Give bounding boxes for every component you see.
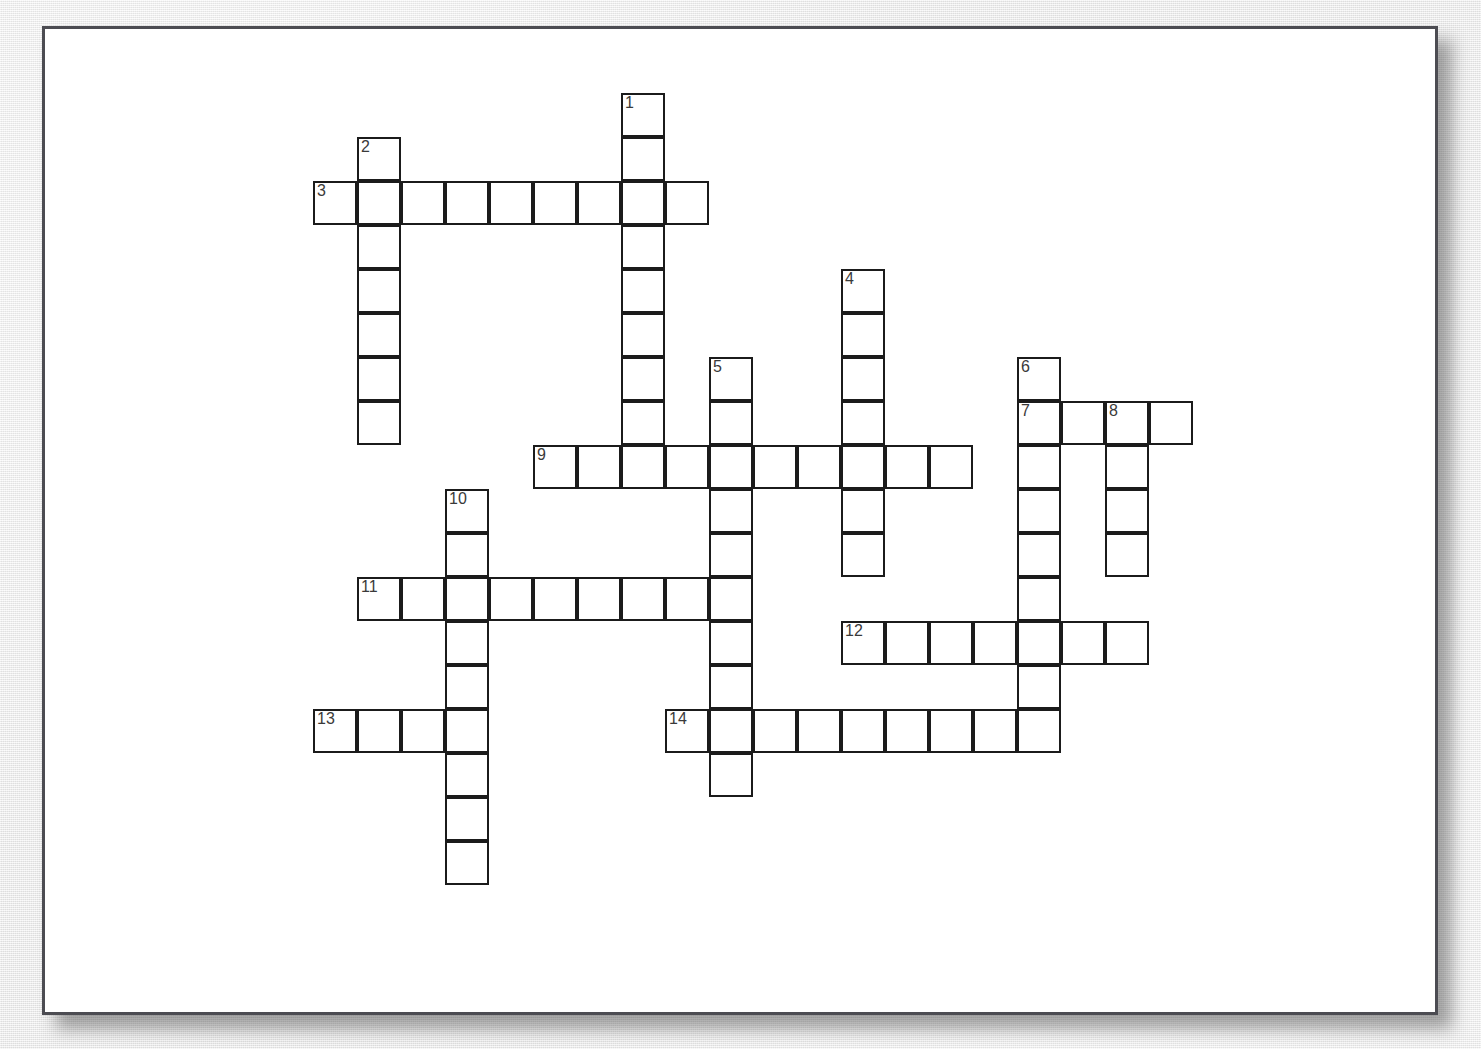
crossword-cell[interactable] [489, 181, 533, 225]
crossword-cell[interactable]: 11 [357, 577, 401, 621]
crossword-cell[interactable] [621, 445, 665, 489]
crossword-cell[interactable] [445, 753, 489, 797]
crossword-cell[interactable]: 8 [1105, 401, 1149, 445]
crossword-cell[interactable]: 9 [533, 445, 577, 489]
cell-number-3: 3 [317, 182, 326, 199]
crossword-cell[interactable] [621, 269, 665, 313]
crossword-cell[interactable] [797, 445, 841, 489]
crossword-cell[interactable] [885, 621, 929, 665]
crossword-cell[interactable] [577, 445, 621, 489]
crossword-cell[interactable] [533, 181, 577, 225]
crossword-cell[interactable] [445, 621, 489, 665]
crossword-cell[interactable]: 2 [357, 137, 401, 181]
crossword-cell[interactable] [709, 577, 753, 621]
crossword-cell[interactable] [621, 577, 665, 621]
crossword-cell[interactable] [445, 665, 489, 709]
crossword-cell[interactable] [1017, 445, 1061, 489]
crossword-cell[interactable]: 1 [621, 93, 665, 137]
crossword-cell[interactable] [357, 401, 401, 445]
crossword-cell[interactable] [621, 357, 665, 401]
crossword-cell[interactable] [929, 621, 973, 665]
crossword-cell[interactable] [621, 225, 665, 269]
crossword-cell[interactable] [709, 401, 753, 445]
crossword-cell[interactable] [841, 533, 885, 577]
crossword-cell[interactable] [973, 709, 1017, 753]
crossword-cell[interactable] [357, 357, 401, 401]
crossword-cell[interactable]: 13 [313, 709, 357, 753]
crossword-cell[interactable] [709, 533, 753, 577]
crossword-cell[interactable] [357, 181, 401, 225]
crossword-cell[interactable] [621, 401, 665, 445]
crossword-cell[interactable] [841, 489, 885, 533]
crossword-cell[interactable] [885, 445, 929, 489]
crossword-cell[interactable]: 3 [313, 181, 357, 225]
crossword-cell[interactable] [1149, 401, 1193, 445]
crossword-cell[interactable] [841, 357, 885, 401]
crossword-cell[interactable] [621, 181, 665, 225]
crossword-cell[interactable] [401, 709, 445, 753]
crossword-cell[interactable] [1017, 533, 1061, 577]
crossword-cell[interactable] [401, 181, 445, 225]
crossword-cell[interactable] [841, 445, 885, 489]
crossword-cell[interactable] [753, 709, 797, 753]
crossword-cell[interactable] [709, 665, 753, 709]
crossword-cell[interactable]: 14 [665, 709, 709, 753]
crossword-cell[interactable] [841, 401, 885, 445]
crossword-cell[interactable] [1061, 621, 1105, 665]
crossword-cell[interactable] [929, 445, 973, 489]
crossword-cell[interactable]: 5 [709, 357, 753, 401]
crossword-cell[interactable] [973, 621, 1017, 665]
crossword-cell[interactable] [929, 709, 973, 753]
crossword-cell[interactable] [445, 709, 489, 753]
crossword-cell[interactable] [1017, 577, 1061, 621]
crossword-cell[interactable] [1105, 533, 1149, 577]
crossword-cell[interactable]: 10 [445, 489, 489, 533]
crossword-cell[interactable] [709, 489, 753, 533]
crossword-cell[interactable] [1105, 489, 1149, 533]
crossword-cell[interactable] [445, 533, 489, 577]
crossword-cell[interactable] [489, 577, 533, 621]
crossword-cell[interactable] [357, 225, 401, 269]
crossword-cell[interactable] [709, 709, 753, 753]
crossword-grid[interactable]: 1234567891011121314 [45, 29, 1435, 1012]
crossword-cell[interactable] [665, 577, 709, 621]
crossword-cell[interactable] [753, 445, 797, 489]
crossword-cell[interactable] [445, 181, 489, 225]
crossword-cell[interactable] [445, 577, 489, 621]
crossword-cell[interactable] [357, 269, 401, 313]
crossword-cell[interactable] [1105, 445, 1149, 489]
crossword-cell[interactable] [709, 621, 753, 665]
cell-number-10: 10 [449, 490, 467, 507]
crossword-cell[interactable] [357, 709, 401, 753]
cell-number-12: 12 [845, 622, 863, 639]
crossword-cell[interactable] [1017, 489, 1061, 533]
crossword-cell[interactable] [445, 797, 489, 841]
crossword-cell[interactable]: 7 [1017, 401, 1061, 445]
crossword-cell[interactable] [577, 577, 621, 621]
crossword-cell[interactable] [841, 709, 885, 753]
crossword-cell[interactable] [709, 753, 753, 797]
crossword-cell[interactable] [665, 445, 709, 489]
crossword-cell[interactable] [841, 313, 885, 357]
crossword-cell[interactable] [1061, 401, 1105, 445]
cell-number-7: 7 [1021, 402, 1030, 419]
crossword-cell[interactable] [797, 709, 841, 753]
crossword-cell[interactable] [1105, 621, 1149, 665]
crossword-cell[interactable] [401, 577, 445, 621]
crossword-cell[interactable] [445, 841, 489, 885]
crossword-cell[interactable]: 6 [1017, 357, 1061, 401]
crossword-cell[interactable] [533, 577, 577, 621]
crossword-cell[interactable] [709, 445, 753, 489]
crossword-cell[interactable] [577, 181, 621, 225]
crossword-cell[interactable]: 12 [841, 621, 885, 665]
crossword-cell[interactable] [885, 709, 929, 753]
crossword-cell[interactable] [621, 137, 665, 181]
cell-number-1: 1 [625, 94, 634, 111]
crossword-cell[interactable] [1017, 709, 1061, 753]
crossword-cell[interactable] [665, 181, 709, 225]
crossword-cell[interactable] [357, 313, 401, 357]
crossword-cell[interactable]: 4 [841, 269, 885, 313]
crossword-cell[interactable] [1017, 621, 1061, 665]
crossword-cell[interactable] [1017, 665, 1061, 709]
crossword-cell[interactable] [621, 313, 665, 357]
